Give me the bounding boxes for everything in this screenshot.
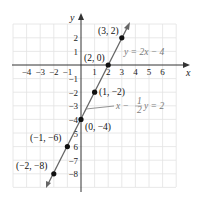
- svg-text:x −: x −: [115, 101, 129, 111]
- x-tick-labels: −4 −3 −2 −1 1 2 3 4 5 6: [22, 67, 166, 77]
- x-axis-label: x: [185, 67, 191, 78]
- point-label-1-neg2: (1, −2): [99, 87, 125, 98]
- line-arrow-bottom-icon: [46, 181, 51, 188]
- y-tick-labels: 2 1 −1 −2 −3 −4 5 6 −7 −8: [68, 33, 78, 179]
- svg-text:2: 2: [74, 33, 79, 43]
- svg-text:5: 5: [74, 129, 79, 139]
- svg-text:6: 6: [74, 142, 79, 152]
- point-label-2-0: (2, 0): [84, 53, 105, 64]
- svg-text:4: 4: [133, 67, 138, 77]
- chart: x y −4 −3 −2 −1 1 2 3 4 5 6 2 1 −1 −2 −3…: [0, 0, 203, 199]
- svg-text:−2: −2: [68, 88, 78, 98]
- point-label-3-2: (3, 2): [98, 26, 119, 37]
- point-label-0-neg4: (0, −4): [85, 122, 111, 133]
- svg-text:3: 3: [120, 67, 125, 77]
- svg-text:1: 1: [92, 67, 97, 77]
- svg-text:−7: −7: [68, 156, 78, 166]
- equation-slope-intercept: y = 2x − 4: [123, 47, 165, 57]
- svg-text:−4: −4: [22, 67, 32, 77]
- equation-leader-line: [86, 106, 114, 109]
- svg-text:−3: −3: [35, 67, 45, 77]
- point-label-neg2-neg8: (−2, −8): [16, 161, 47, 172]
- y-axis-arrow-icon: [78, 13, 84, 20]
- point-label-neg1-neg6: (−1, −6): [30, 133, 61, 144]
- svg-text:1: 1: [74, 47, 79, 57]
- line-arrow-top-icon: [124, 22, 130, 30]
- svg-text:−4: −4: [68, 115, 78, 125]
- svg-text:2: 2: [137, 105, 142, 115]
- svg-text:y = 2: y = 2: [143, 101, 164, 111]
- svg-text:5: 5: [147, 67, 152, 77]
- y-axis-label: y: [69, 12, 75, 23]
- svg-text:−8: −8: [68, 169, 78, 179]
- equation-standard-form: x − 1 2 y = 2: [115, 96, 164, 115]
- svg-text:6: 6: [160, 67, 165, 77]
- svg-text:−3: −3: [68, 101, 78, 111]
- svg-text:−1: −1: [68, 74, 78, 84]
- svg-text:−2: −2: [49, 67, 59, 77]
